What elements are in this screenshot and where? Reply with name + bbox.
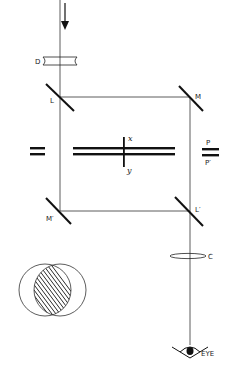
compensator-plates-P <box>202 148 219 156</box>
compensator-plates-left <box>30 147 45 155</box>
label-P: P <box>206 139 210 147</box>
beam-paths <box>60 0 190 345</box>
label-C: C <box>208 253 213 261</box>
axis-label-x: x <box>128 134 133 143</box>
label-D: D <box>35 58 40 66</box>
incoming-light-arrow-icon <box>61 3 69 30</box>
label-eye: EYE <box>201 350 214 358</box>
condenser-lens-C <box>170 253 206 258</box>
label-L: L <box>50 97 54 105</box>
specimen-plates <box>73 137 175 167</box>
label-L-prime: L′ <box>195 206 201 214</box>
label-M-prime: M′ <box>46 215 54 223</box>
overlap-circles-inset <box>0 250 100 330</box>
label-P-prime: P′ <box>205 159 211 167</box>
interferometer-diagram: D L M M′ L′ x y P P′ C EYE <box>0 0 229 367</box>
axis-label-y: y <box>126 166 132 175</box>
label-M: M <box>195 93 201 101</box>
